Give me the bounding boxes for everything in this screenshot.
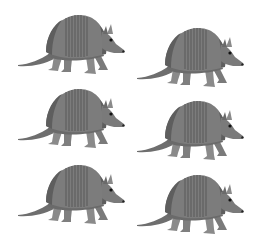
armadillo-icon <box>16 162 126 226</box>
armadillo-icon <box>135 172 245 236</box>
armadillo-3 <box>16 86 126 150</box>
armadillo-icon <box>16 12 126 76</box>
armadillo-icon <box>135 25 245 89</box>
armadillo-icon <box>16 86 126 150</box>
armadillo-4 <box>135 98 245 162</box>
armadillo-1 <box>16 12 126 76</box>
image-canvas <box>0 0 263 240</box>
armadillo-2 <box>135 25 245 89</box>
armadillo-5 <box>16 162 126 226</box>
armadillo-6 <box>135 172 245 236</box>
armadillo-icon <box>135 98 245 162</box>
